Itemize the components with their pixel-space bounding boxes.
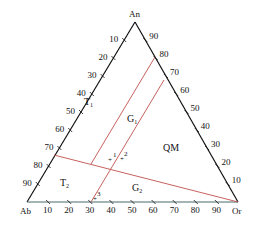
right-edge-ticks: 908070605040302010 bbox=[143, 31, 241, 186]
vertex-or: Or bbox=[232, 206, 242, 216]
svg-text:1: 1 bbox=[113, 151, 117, 159]
left-edge-ticks: 102030405060708090 bbox=[23, 34, 126, 188]
right-tick-label: 60 bbox=[180, 85, 190, 95]
right-tick-label: 30 bbox=[211, 139, 221, 149]
sample-point-1: + 1 bbox=[108, 151, 117, 164]
right-tick-label: 20 bbox=[221, 157, 231, 167]
boundary-cross bbox=[54, 155, 238, 202]
bottom-tick-label: 40 bbox=[106, 205, 116, 215]
vertex-an: An bbox=[129, 9, 140, 19]
bottom-tick-label: 80 bbox=[191, 205, 201, 215]
region-g2: G2 bbox=[132, 182, 142, 194]
bottom-tick-label: 10 bbox=[43, 205, 53, 215]
ternary-diagram: An Ab Or 102030405060708090 908070605040… bbox=[0, 0, 258, 228]
region-qm: QM bbox=[163, 142, 179, 153]
right-tick-label: 70 bbox=[170, 67, 180, 77]
bottom-tick-label: 70 bbox=[170, 205, 180, 215]
right-tick-label: 90 bbox=[149, 31, 159, 41]
left-tick-label: 10 bbox=[109, 34, 119, 44]
right-tick-label: 80 bbox=[160, 49, 170, 59]
left-tick-label: 60 bbox=[55, 124, 64, 134]
right-tick-label: 10 bbox=[232, 175, 242, 185]
svg-text:3: 3 bbox=[97, 190, 101, 198]
svg-text:2: 2 bbox=[124, 150, 128, 158]
left-tick-label: 30 bbox=[88, 70, 98, 80]
bottom-tick-label: 60 bbox=[149, 205, 159, 215]
region-t1: T1 bbox=[84, 96, 93, 108]
right-tick-label: 50 bbox=[191, 103, 201, 113]
right-tick-label: 40 bbox=[201, 121, 211, 131]
left-tick-label: 50 bbox=[66, 106, 76, 116]
left-tick-label: 90 bbox=[23, 178, 33, 188]
bottom-tick-label: 50 bbox=[128, 205, 138, 215]
vertex-ab: Ab bbox=[20, 206, 31, 216]
sample-point-3: + 3 bbox=[93, 190, 101, 203]
boundary-g1-qm bbox=[91, 80, 164, 202]
bottom-tick-label: 30 bbox=[85, 205, 95, 215]
svg-text:+: + bbox=[108, 156, 112, 164]
left-tick-label: 80 bbox=[34, 160, 44, 170]
bottom-tick-label: 90 bbox=[212, 205, 222, 215]
bottom-tick-label: 20 bbox=[64, 205, 74, 215]
left-tick-label: 70 bbox=[44, 142, 54, 152]
region-t2: T2 bbox=[60, 177, 69, 189]
left-tick-label: 20 bbox=[98, 52, 108, 62]
region-g1: G1 bbox=[127, 113, 137, 125]
